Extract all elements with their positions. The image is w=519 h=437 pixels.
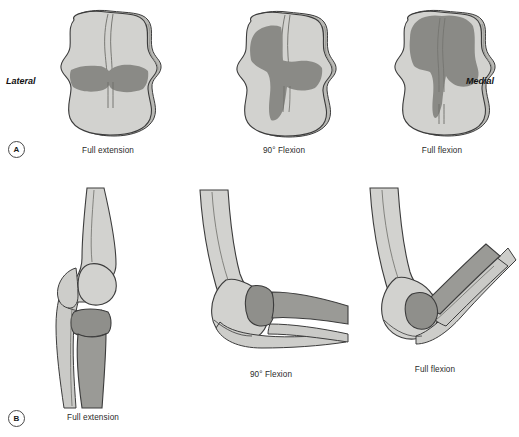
- caption-elbow-full-extension: Full extension: [28, 413, 158, 422]
- caption-elbow-full-flexion: Full flexion: [370, 365, 500, 374]
- elbow-panel-full-flexion: [358, 186, 518, 358]
- elbow-90-flexion-icon: [186, 188, 356, 360]
- elbow-full-flexion-icon: [358, 186, 518, 358]
- label-medial: Medial: [466, 76, 494, 86]
- knee-contact-90-flexion-icon: [225, 10, 343, 140]
- knee-panel-full-extension: [48, 8, 168, 140]
- label-lateral: Lateral: [6, 76, 36, 86]
- knee-panel-full-flexion: [382, 8, 502, 140]
- anatomy-figure: Full extension 90° Flexion: [0, 0, 519, 437]
- elbow-full-extension-icon: [30, 186, 160, 411]
- caption-knee-90-flexion: 90° Flexion: [225, 146, 343, 155]
- knee-panel-90-flexion: [225, 10, 343, 140]
- panel-marker-a: A: [8, 141, 25, 158]
- caption-elbow-90-flexion: 90° Flexion: [196, 370, 346, 379]
- caption-knee-full-extension: Full extension: [48, 146, 168, 155]
- knee-contact-full-flexion-icon: [382, 8, 502, 140]
- knee-contact-full-extension-icon: [48, 8, 168, 140]
- elbow-panel-90-flexion: [186, 188, 356, 360]
- elbow-panel-full-extension: [30, 186, 160, 411]
- caption-knee-full-flexion: Full flexion: [382, 146, 502, 155]
- panel-marker-b: B: [8, 410, 25, 427]
